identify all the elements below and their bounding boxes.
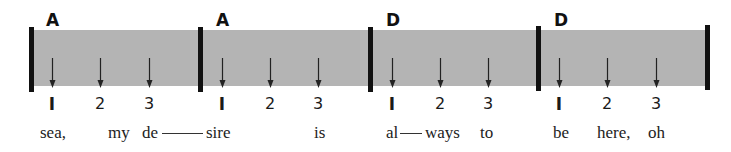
lyric-word: be bbox=[553, 123, 569, 143]
beat-number: 3 bbox=[483, 95, 493, 113]
beat-number: 2 bbox=[602, 95, 612, 113]
chord-label: D bbox=[554, 12, 568, 29]
lyric-word: to bbox=[480, 123, 493, 143]
down-arrow-icon bbox=[48, 58, 57, 88]
beat-number: 3 bbox=[144, 95, 154, 113]
syllable-extender bbox=[400, 133, 422, 134]
beat-number: 2 bbox=[95, 95, 105, 113]
lyric-word: oh bbox=[648, 123, 665, 143]
down-arrow-icon bbox=[388, 58, 397, 88]
beat-number: I bbox=[556, 95, 562, 113]
beat-number: 3 bbox=[313, 95, 323, 113]
syllable-extender bbox=[162, 133, 203, 134]
bar-line-2 bbox=[198, 27, 203, 92]
beat-number: I bbox=[219, 95, 225, 113]
lyric-word: ways bbox=[425, 123, 460, 143]
lyric-word: is bbox=[314, 123, 325, 143]
beat-number: I bbox=[49, 95, 55, 113]
beat-number: 3 bbox=[651, 95, 661, 113]
lyric-word: sea, bbox=[40, 123, 66, 143]
lyric-word: my bbox=[108, 123, 130, 143]
bar-line-3 bbox=[368, 27, 373, 92]
down-arrow-icon bbox=[145, 58, 154, 88]
down-arrow-icon bbox=[652, 58, 661, 88]
down-arrow-icon bbox=[603, 58, 612, 88]
chord-label: A bbox=[216, 12, 229, 29]
lyric-word: sire bbox=[206, 123, 231, 143]
down-arrow-icon bbox=[314, 58, 323, 88]
chord-label: A bbox=[46, 12, 59, 29]
down-arrow-icon bbox=[218, 58, 227, 88]
down-arrow-icon bbox=[555, 58, 564, 88]
bar-line-4 bbox=[536, 26, 541, 91]
down-arrow-icon bbox=[484, 58, 493, 88]
beat-number: 2 bbox=[265, 95, 275, 113]
beat-number: 2 bbox=[435, 95, 445, 113]
lyric-word: de bbox=[142, 123, 158, 143]
lyric-word: here, bbox=[597, 123, 631, 143]
down-arrow-icon bbox=[266, 58, 275, 88]
beat-number: I bbox=[389, 95, 395, 113]
down-arrow-icon bbox=[436, 58, 445, 88]
down-arrow-icon bbox=[96, 58, 105, 88]
bar-line-1 bbox=[29, 27, 34, 92]
bar-line-end bbox=[705, 25, 710, 90]
lyric-word: al bbox=[386, 123, 398, 143]
chord-label: D bbox=[386, 12, 400, 29]
